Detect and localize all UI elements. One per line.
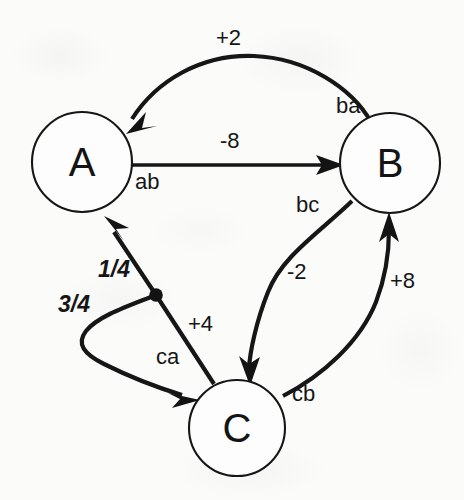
edge-ab [130, 155, 344, 175]
edge-ca-name-label: ca [156, 346, 179, 368]
edge-ca-junction-dot [149, 288, 163, 302]
edge-cb-name-label: cb [292, 383, 315, 405]
edge-bc-path [249, 201, 352, 368]
edge-cb-path [283, 230, 389, 396]
edge-bc-name-label: bc [296, 194, 319, 216]
edge-ab-weight-label: -8 [220, 130, 240, 152]
node-c-label: C [207, 408, 267, 448]
node-a-label: A [52, 142, 112, 182]
edge-ba [126, 56, 371, 134]
edge-cb [283, 212, 399, 396]
edge-bc-weight-label: -2 [287, 261, 307, 283]
edge-ba-arrowhead [126, 112, 157, 134]
branch-probability-three-quarter-label: 3/4 [58, 293, 90, 316]
edge-cb-weight-label: +8 [390, 270, 415, 292]
edge-ba-weight-label: +2 [216, 27, 241, 49]
edge-ca-trunk-path [156, 295, 214, 384]
node-b-label: B [360, 143, 420, 183]
edge-ca-weight-label: +4 [188, 313, 213, 335]
edge-ab-name-label: ab [135, 171, 159, 193]
diagram-canvas: A B C +2 ba -8 ab bc -2 +8 cb +4 ca 1/4 … [0, 0, 464, 500]
branch-probability-quarter-label: 1/4 [98, 258, 130, 281]
edge-ba-name-label: ba [336, 95, 360, 117]
